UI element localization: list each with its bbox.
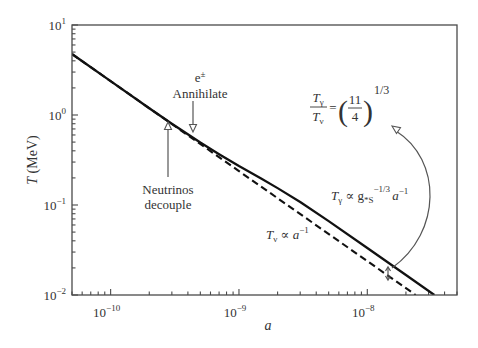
tgamma-g-sub: *S [364,195,374,205]
eq-paren-open: ( [338,94,348,128]
ee-sup: ± [200,69,205,79]
x-tick-label-base: 10 [352,305,365,320]
eq-frac-num: 11 [349,92,362,107]
annotation-neutrinos-label: Neutrinos [142,182,193,197]
eq-den-sub: ν [320,116,324,126]
x-tick-label-base: 10 [93,305,106,320]
tgamma-a-exp: −1 [399,186,409,196]
eq-paren-close: ) [363,94,373,128]
y-tick-label-exp: 1 [62,16,67,26]
y-tick-label-base: 10 [43,288,56,303]
y-axis-title-unit: (MeV) [25,135,41,177]
tgamma-prop: ∝ g [342,188,364,203]
y-tick-label-exp: −2 [56,286,66,296]
tgamma-g-exp: −1/3 [374,184,391,194]
y-tick-label-exp: −1 [56,196,66,206]
eq-equals: = [329,100,336,115]
x-tick-label-exp: −10 [106,303,121,313]
eq-frac-den: 4 [352,109,359,124]
x-tick-label-exp: −8 [365,303,375,313]
y-tick-label-base: 10 [43,198,56,213]
x-axis-title: a [265,318,272,333]
x-tick-label-exp: −9 [237,303,247,313]
y-tick-label-base: 10 [49,18,62,33]
eq-exponent: 1/3 [374,83,389,97]
annotation-annihilate-label: Annihilate [173,86,228,101]
tnu-a-exp: −1 [299,225,309,235]
y-tick-label-exp: 0 [62,106,67,116]
y-tick-label-base: 10 [49,108,62,123]
y-axis-title: T (MeV) [25,135,41,185]
x-tick-label-base: 10 [224,305,237,320]
tnu-prop: ∝ [277,227,292,242]
eq-num-sub: γ [319,97,324,107]
temperature-vs-scale-factor-chart: 10−1010−910−810110010−110−2 a T (MeV) e±… [0,0,478,348]
annotation-decouple-label: decouple [145,197,192,212]
